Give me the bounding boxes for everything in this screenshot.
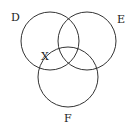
label-f: F xyxy=(64,112,72,125)
circle-d xyxy=(21,12,79,70)
venn-diagram: D E F X xyxy=(0,0,131,130)
region-marker-x: X xyxy=(41,50,49,63)
label-d: D xyxy=(11,11,20,24)
circle-e xyxy=(58,12,116,70)
label-e: E xyxy=(117,13,125,26)
